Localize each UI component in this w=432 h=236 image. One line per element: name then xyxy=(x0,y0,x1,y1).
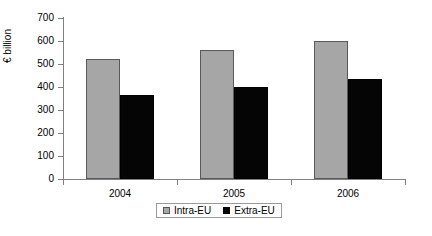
x-tick-label-2004: 2004 xyxy=(90,188,150,199)
bar-intra-eu-2006 xyxy=(314,41,348,179)
bar-extra-eu-2004 xyxy=(120,95,154,179)
chart-legend: Intra-EUExtra-EU xyxy=(156,203,282,218)
x-tick-mark xyxy=(291,180,292,185)
bar-intra-eu-2005 xyxy=(200,50,234,179)
legend-label: Extra-EU xyxy=(234,206,275,216)
y-tick-label: 100 xyxy=(14,151,54,161)
x-tick-mark xyxy=(177,180,178,185)
y-tick-label: 700 xyxy=(14,13,54,23)
plot-area xyxy=(63,18,405,179)
y-tick-label: 600 xyxy=(14,36,54,46)
y-tick-label: 300 xyxy=(14,105,54,115)
y-tick-label: 200 xyxy=(14,128,54,138)
y-tick-label: 400 xyxy=(14,82,54,92)
bar-chart: € billion 7006005004003002001000 2004200… xyxy=(0,0,432,236)
bar-extra-eu-2005 xyxy=(234,87,268,179)
y-tick-label: 500 xyxy=(14,59,54,69)
legend-entry-extra-eu: Extra-EU xyxy=(223,206,275,216)
legend-label: Intra-EU xyxy=(174,206,211,216)
x-tick-mark xyxy=(405,180,406,185)
bar-intra-eu-2004 xyxy=(86,59,120,179)
black-square-icon xyxy=(223,207,230,214)
x-tick-label-2006: 2006 xyxy=(318,188,378,199)
y-tick-label: 0 xyxy=(14,174,54,184)
x-tick-mark xyxy=(63,180,64,185)
bar-extra-eu-2006 xyxy=(348,79,382,179)
x-tick-label-2005: 2005 xyxy=(204,188,264,199)
x-axis-line xyxy=(63,179,406,180)
gray-square-icon xyxy=(163,207,170,214)
legend-entry-intra-eu: Intra-EU xyxy=(163,206,211,216)
